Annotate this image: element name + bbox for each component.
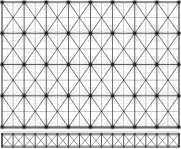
- technical-drawing-canvas: Space Frame Roof Plan and Truss Elevatio…: [0, 0, 181, 149]
- truss-elevation: [0, 0, 181, 149]
